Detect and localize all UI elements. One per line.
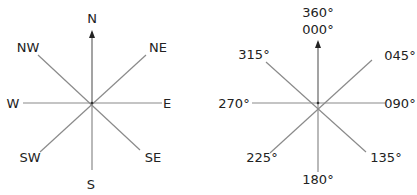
label-w: W — [7, 96, 20, 111]
label-360: 360° — [302, 5, 333, 20]
label-270: 270° — [218, 96, 249, 111]
label-315: 315° — [238, 47, 269, 62]
label-n: N — [87, 11, 97, 26]
label-nw: NW — [17, 40, 40, 55]
bearing-315-135-line — [266, 62, 366, 152]
bearing-045-225-line — [270, 60, 372, 153]
label-090: 090° — [384, 96, 415, 111]
north-arrowhead-icon — [89, 30, 95, 38]
compass-rose-points: N NW NE W E SW SE S — [7, 11, 172, 192]
label-se: SE — [145, 150, 161, 165]
label-sw: SW — [19, 150, 40, 165]
center-point — [91, 102, 94, 105]
label-s: S — [87, 177, 95, 192]
bearing-center-point — [317, 102, 320, 105]
label-ne: NE — [149, 40, 167, 55]
label-135: 135° — [370, 150, 401, 165]
compass-rose-bearings: 360° 000° 315° 045° 270° 090° 225° 135° … — [218, 5, 415, 187]
label-180: 180° — [302, 172, 333, 187]
compass-diagram: N NW NE W E SW SE S 360° 000° 315° 045° … — [0, 0, 417, 195]
label-045: 045° — [384, 48, 415, 63]
label-225: 225° — [246, 150, 277, 165]
label-000: 000° — [302, 22, 333, 37]
north-bearing-arrowhead-icon — [315, 40, 321, 48]
label-e: E — [163, 96, 171, 111]
